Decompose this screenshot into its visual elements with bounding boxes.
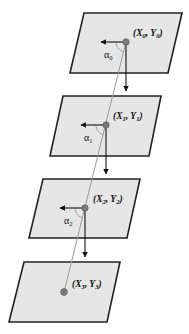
- point-1: [103, 122, 109, 128]
- point-2: [82, 205, 88, 211]
- trajectory-line: [64, 42, 126, 292]
- point-3: [61, 289, 68, 296]
- point-0: [123, 39, 129, 45]
- layered-trajectory-diagram: (X0, Y0) (X1, Y1) (X2, Y2) (X3, Y3) α0 α…: [0, 0, 189, 334]
